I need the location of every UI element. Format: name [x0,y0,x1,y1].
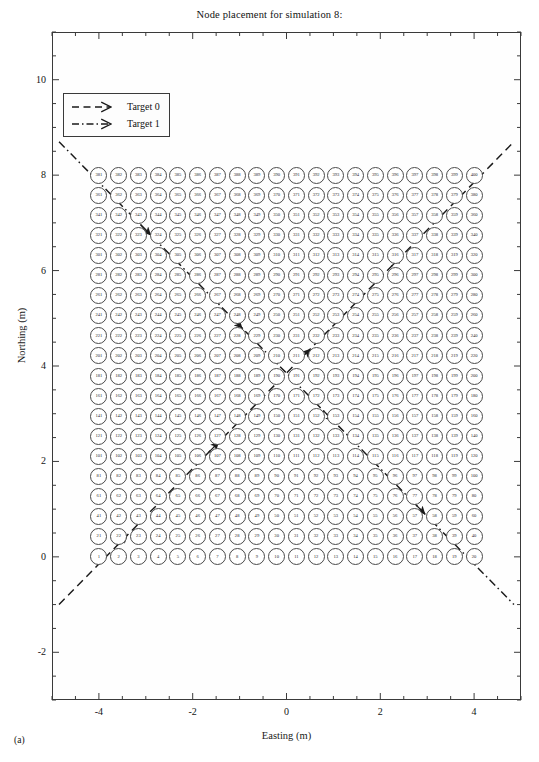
grid-node: 193 [327,368,344,385]
grid-node: 275 [367,287,384,304]
grid-node: 71 [288,488,305,505]
grid-node: 342 [110,207,127,224]
y-tick-label: 10 [6,74,46,85]
legend-sample-dashdot [70,117,120,131]
grid-node: 375 [367,187,384,204]
grid-node: 394 [347,167,364,184]
grid-node: 376 [387,187,404,204]
grid-node: 259 [446,307,463,324]
grid-node: 110 [268,448,285,465]
x-axis-title: Easting (m) [52,730,521,741]
grid-node: 299 [446,267,463,284]
grid-node: 368 [229,187,246,204]
grid-node: 91 [288,468,305,485]
grid-node: 361 [90,187,107,204]
grid-node: 332 [308,227,325,244]
grid-node: 367 [209,187,226,204]
grid-node: 153 [327,408,344,425]
grid-node: 124 [150,428,167,445]
grid-node: 64 [150,488,167,505]
grid-node: 347 [209,207,226,224]
grid-node: 316 [387,247,404,264]
grid-node: 191 [288,368,305,385]
grid-node: 135 [367,428,384,445]
grid-node: 150 [268,408,285,425]
grid-node: 391 [288,167,305,184]
grid-node: 291 [288,267,305,284]
grid-node: 155 [367,408,384,425]
grid-node: 114 [347,448,364,465]
grid-node: 328 [229,227,246,244]
grid-node: 304 [150,247,167,264]
grid-node: 255 [367,307,384,324]
grid-node: 4 [150,548,167,565]
grid-node: 12 [308,548,325,565]
grid-node: 103 [130,448,147,465]
grid-node: 76 [387,488,404,505]
grid-node: 87 [209,468,226,485]
legend-item-target-0: Target 0 [70,98,160,115]
grid-node: 251 [288,307,305,324]
panel-label: (a) [14,735,25,745]
grid-node: 374 [347,187,364,204]
grid-node: 44 [150,508,167,525]
grid-node: 311 [288,247,305,264]
grid-node: 314 [347,247,364,264]
y-tick-label: -2 [6,646,46,657]
grid-node: 43 [130,508,147,525]
grid-node: 339 [446,227,463,244]
grid-node: 373 [327,187,344,204]
grid-node: 123 [130,428,147,445]
grid-node: 175 [367,388,384,405]
grid-node: 330 [268,227,285,244]
grid-node: 232 [308,327,325,344]
grid-node: 335 [367,227,384,244]
grid-node: 176 [387,388,404,405]
grid-node: 146 [189,408,206,425]
legend-box: Target 0 Target 1 [63,93,170,137]
grid-node: 39 [446,528,463,545]
grid-node: 185 [169,368,186,385]
legend-label-target-0: Target 0 [127,101,160,112]
grid-node: 272 [308,287,325,304]
grid-node: 340 [466,227,483,244]
grid-node: 264 [150,287,167,304]
grid-node: 68 [229,488,246,505]
grid-node: 192 [308,368,325,385]
grid-node: 8 [229,548,246,565]
grid-node: 252 [308,307,325,324]
grid-node: 171 [288,388,305,405]
grid-node: 75 [367,488,384,505]
grid-node: 160 [466,408,483,425]
grid-node: 224 [150,327,167,344]
grid-node: 152 [308,408,325,425]
grid-node: 296 [387,267,404,284]
grid-node: 248 [229,307,246,324]
grid-node: 172 [308,388,325,405]
grid-node: 67 [209,488,226,505]
grid-node: 108 [229,448,246,465]
grid-node: 28 [229,528,246,545]
grid-node: 360 [466,207,483,224]
grid-node: 100 [466,468,483,485]
grid-node: 271 [288,287,305,304]
grid-node: 55 [367,508,384,525]
grid-node: 189 [248,368,265,385]
y-axis-title: Northing (m) [16,271,27,401]
grid-node: 140 [466,428,483,445]
grid-node: 267 [209,287,226,304]
grid-node: 163 [130,388,147,405]
grid-node: 196 [387,368,404,385]
grid-node: 384 [150,167,167,184]
grid-node: 307 [209,247,226,264]
grid-node: 276 [387,287,404,304]
grid-node: 72 [308,488,325,505]
grid-node: 381 [90,167,107,184]
grid-node: 302 [110,247,127,264]
grid-node: 60 [466,508,483,525]
grid-node: 145 [169,408,186,425]
grid-node: 343 [130,207,147,224]
x-tick-label: 0 [267,706,307,717]
grid-node: 98 [426,468,443,485]
grid-node: 308 [229,247,246,264]
